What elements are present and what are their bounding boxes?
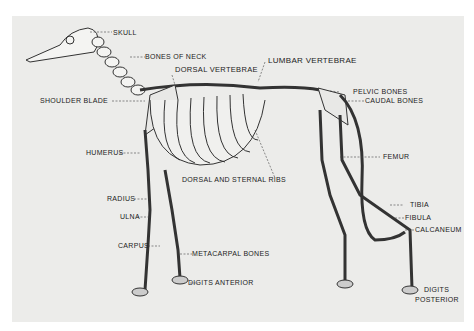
label-ulna: ULNA [120,213,140,220]
label-metacarpal-bones: METACARPAL BONES [192,250,269,257]
label-femur: FEMUR [383,153,409,160]
label-dorsal-and-sternal-ribs: DORSAL AND STERNAL RIBS [182,176,286,183]
label-fibula: FIBULA [405,214,431,221]
label-bones-of-neck: BONES OF NECK [145,53,206,60]
label-humerus: HUMERUS [86,149,124,156]
label-posterior: POSTERIOR [415,296,459,303]
label-dorsal-vertebrae: DORSAL VERTEBRAE [175,65,258,74]
label-skull: SKULL [113,29,137,36]
label-carpus: CARPUS [118,242,149,249]
label-lumbar-vertebrae: LUMBAR VERTEBRAE [268,56,357,65]
label-shoulder-blade: SHOULDER BLADE [40,97,108,104]
label-caudal-bones: CAUDAL BONES [365,97,423,104]
label-calcaneum: CALCANEUM [415,226,462,233]
label-digits: DIGITS [424,286,449,293]
label-pelvic-bones: PELVIC BONES [353,88,407,95]
label-radius: RADIUS [107,195,135,202]
label-digits-anterior: DIGITS ANTERIOR [188,279,254,286]
label-tibia: TIBIA [410,201,429,208]
